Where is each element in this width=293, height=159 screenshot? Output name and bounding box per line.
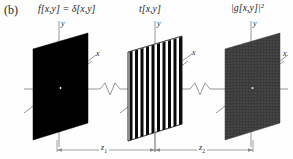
input-plane-surface xyxy=(33,33,88,140)
output-plane-y-axis-label: y xyxy=(253,20,257,28)
input-plane-x-axis-label: x xyxy=(96,50,100,58)
part-label: (b) xyxy=(4,4,18,16)
output-bright-spot xyxy=(251,87,253,89)
output-plane-x-axis-label: x xyxy=(283,50,287,58)
grating-plane-x-axis-label: x xyxy=(192,49,196,57)
input-plane-title: f[x,y] = δ[x,y] xyxy=(38,4,96,14)
axis-break-zigzag-2 xyxy=(190,83,218,95)
diagram-canvas xyxy=(0,0,293,159)
dimension-label-z1: z1 xyxy=(99,144,109,154)
output-plane-title: |g[x,y]|² xyxy=(231,3,264,13)
input-plane-group xyxy=(24,21,96,147)
grating-plane-y-axis-label: y xyxy=(157,20,161,28)
dimension-label-z2-sub: 2 xyxy=(202,148,205,154)
axis-break-zigzag-1 xyxy=(100,83,128,95)
input-plane-y-axis-label: y xyxy=(61,20,65,28)
dimension-lines xyxy=(57,128,253,152)
dimension-label-z1-sub: 1 xyxy=(104,148,107,154)
output-plane-group xyxy=(216,21,288,147)
delta-point-source xyxy=(60,87,62,89)
output-plane-surface xyxy=(225,33,280,140)
grating-plane-group xyxy=(120,21,192,152)
grating-plane-title: t[x,y] xyxy=(139,4,161,14)
dimension-label-z2: z2 xyxy=(197,144,207,154)
optics-diagram-figure: (b) f[x,y] = δ[x,y] t[x,y] |g[x,y]|² y x… xyxy=(0,0,293,159)
